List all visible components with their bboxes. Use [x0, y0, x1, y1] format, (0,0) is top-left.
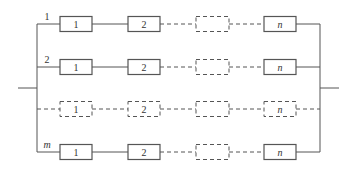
block-label: 1 [74, 104, 79, 115]
block-label: n [278, 19, 283, 30]
block-label: 1 [74, 147, 79, 158]
block-label: n [278, 62, 283, 73]
block-3 [196, 102, 229, 117]
row-4: 12nm [37, 139, 320, 160]
row-label: 1 [45, 11, 50, 22]
block-label: 2 [142, 62, 147, 73]
block-label: n [278, 104, 283, 115]
row-label: 2 [45, 54, 50, 65]
row-2: 12n2 [37, 54, 320, 75]
row-1: 12n1 [37, 11, 320, 32]
block-label: 2 [142, 147, 147, 158]
block-label: n [278, 147, 283, 158]
block-3 [196, 145, 229, 160]
block-3 [196, 60, 229, 75]
reliability-block-diagram: 12n112n212n12nm [0, 0, 355, 175]
block-3 [196, 17, 229, 32]
block-label: 1 [74, 62, 79, 73]
row-3: 12n [37, 102, 320, 117]
row-label: m [43, 139, 50, 150]
block-label: 2 [142, 19, 147, 30]
block-label: 1 [74, 19, 79, 30]
block-label: 2 [142, 104, 147, 115]
